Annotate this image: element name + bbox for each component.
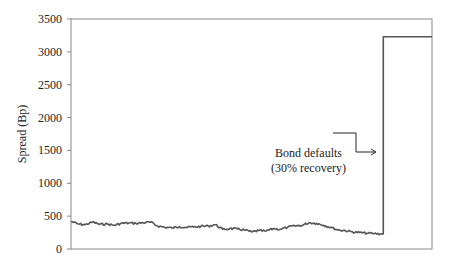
y-tick-label: 500 xyxy=(44,209,62,223)
y-tick-label: 0 xyxy=(56,242,62,256)
y-axis-label: Spread (Bp) xyxy=(15,105,29,163)
y-tick-label: 1000 xyxy=(38,176,62,190)
y-tick-label: 2500 xyxy=(38,78,62,92)
spread-line xyxy=(71,37,432,235)
y-tick-label: 2000 xyxy=(38,111,62,125)
annotation-line-1: Bond defaults xyxy=(275,146,342,160)
annotation-line-2: (30% recovery) xyxy=(271,161,346,175)
y-tick-label: 3000 xyxy=(38,45,62,59)
plot-area xyxy=(71,19,432,249)
spread-chart: 0500100015002000250030003500Spread (Bp)B… xyxy=(0,0,452,264)
y-tick-label: 3500 xyxy=(38,12,62,26)
y-tick-label: 1500 xyxy=(38,143,62,157)
